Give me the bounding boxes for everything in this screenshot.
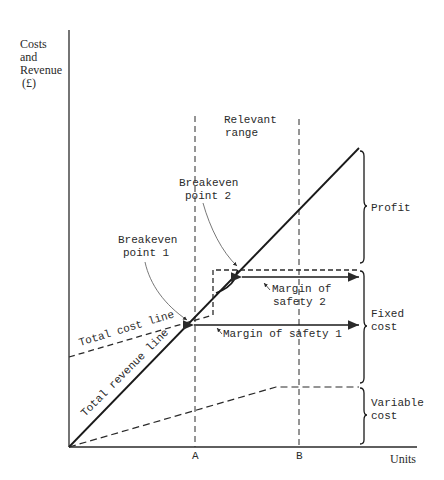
fixed-cost-label: Fixed cost [371, 308, 411, 333]
y-axis-label: Costs and Revenue (£) [20, 37, 65, 90]
breakeven-2-arrow [203, 203, 237, 266]
fixed-cost-brace [360, 271, 367, 383]
margin-safety-1-pointer [217, 328, 222, 334]
x-axis-label: Units [390, 452, 416, 466]
tick-b: B [296, 450, 303, 462]
breakeven-2-label: Breakeven point 2 [179, 177, 245, 202]
breakeven-1-label: Breakeven point 1 [118, 234, 184, 259]
relevant-range-label: Relevant range [224, 114, 283, 139]
profit-label: Profit [371, 202, 411, 214]
variable-cost-label: Variable cost [371, 397, 430, 422]
margin-safety-2-label: Margin of safety 2 [272, 283, 338, 308]
variable-cost-line [69, 387, 359, 447]
margin-safety-2-pointer [264, 283, 270, 290]
tick-a: A [192, 450, 199, 462]
breakeven-diagram: Costs and Revenue (£) Units A B Relevant… [0, 0, 444, 480]
margin-safety-1-label: Margin of safety 1 [223, 328, 342, 340]
revenue-curve-bump [216, 270, 238, 293]
variable-cost-brace [360, 388, 367, 444]
profit-brace [360, 151, 367, 263]
